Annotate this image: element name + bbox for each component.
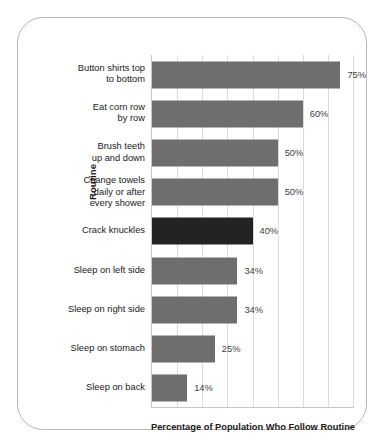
bar-row: Sleep on left side34% xyxy=(152,251,353,290)
category-label: Sleep on right side xyxy=(25,304,145,316)
bar-row: Crack knuckles40% xyxy=(152,212,353,251)
bar-row: Brush teeth up and down50% xyxy=(152,133,353,172)
bar-value-label: 60% xyxy=(310,109,329,119)
bar-row: Sleep on back14% xyxy=(152,369,353,408)
bar-row: Change towels daily or after every showe… xyxy=(152,173,353,212)
category-label: Change towels daily or after every showe… xyxy=(25,175,145,210)
bar-value-label: 40% xyxy=(260,226,279,236)
bar xyxy=(152,140,278,167)
category-label: Eat corn row by row xyxy=(25,102,145,125)
bar-row: Eat corn row by row60% xyxy=(152,94,353,133)
category-label: Sleep on stomach xyxy=(25,343,145,355)
bar xyxy=(152,257,237,284)
gridline xyxy=(353,55,354,408)
bar-row: Button shirts top to bottom75% xyxy=(152,55,353,94)
bar-highlighted xyxy=(152,218,253,245)
bar-value-label: 50% xyxy=(285,187,304,197)
bar-row: Sleep on right side34% xyxy=(152,290,353,329)
x-axis-title: Percentage of Population Who Follow Rout… xyxy=(151,422,354,432)
bar-value-label: 75% xyxy=(347,70,366,80)
category-label: Brush teeth up and down xyxy=(25,141,145,164)
category-label: Sleep on left side xyxy=(25,265,145,277)
bar-value-label: 34% xyxy=(244,266,263,276)
bar-value-label: 14% xyxy=(194,383,213,393)
bar-value-label: 50% xyxy=(285,148,304,158)
bar xyxy=(152,296,237,323)
x-axis-line xyxy=(151,407,354,408)
category-label: Button shirts top to bottom xyxy=(25,63,145,86)
plot-area: Button shirts top to bottom75%Eat corn r… xyxy=(151,55,354,408)
bar xyxy=(152,375,187,402)
bar xyxy=(152,179,278,206)
bar xyxy=(152,61,340,88)
bar xyxy=(152,336,215,363)
category-label: Sleep on back xyxy=(25,383,145,395)
bar-value-label: 34% xyxy=(244,305,263,315)
chart-card: Routine Button shirts top to bottom75%Ea… xyxy=(17,17,367,430)
bar xyxy=(152,100,303,127)
bar-value-label: 25% xyxy=(222,344,241,354)
bar-row: Sleep on stomach25% xyxy=(152,330,353,369)
category-label: Crack knuckles xyxy=(25,226,145,238)
